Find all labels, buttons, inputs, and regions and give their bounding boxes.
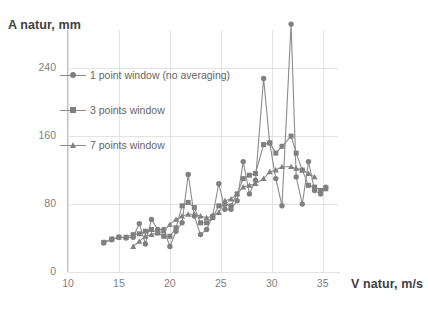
data-point: [306, 183, 311, 188]
data-point: [247, 173, 252, 178]
data-point: [279, 203, 284, 208]
data-point: [323, 186, 328, 191]
data-point: [273, 151, 278, 156]
data-point: [192, 205, 197, 210]
data-point: [294, 174, 299, 179]
data-point: [161, 234, 166, 239]
data-point: [306, 159, 311, 164]
data-point: [198, 220, 203, 225]
data-point: [216, 203, 221, 208]
data-point: [204, 220, 209, 225]
data-point: [241, 159, 246, 164]
data-point: [261, 142, 266, 147]
data-point: [179, 220, 184, 225]
data-point: [174, 225, 179, 230]
data-point: [318, 188, 323, 193]
legend-label: 7 points window: [90, 139, 165, 151]
circle-marker-icon: [60, 69, 86, 81]
data-point: [288, 21, 293, 26]
data-point: [216, 181, 221, 186]
data-point: [261, 76, 266, 81]
data-point: [247, 191, 252, 196]
data-point: [143, 229, 148, 234]
chart-container: A natur, mm V natur, m/s 080160240 10152…: [0, 0, 428, 309]
data-point: [234, 198, 239, 203]
data-point: [204, 227, 209, 232]
data-point: [167, 234, 172, 239]
data-point: [137, 231, 142, 236]
legend-item-3-points[interactable]: 3 points window: [60, 103, 230, 117]
data-point: [241, 176, 246, 181]
data-point: [109, 236, 114, 241]
data-point: [198, 232, 203, 237]
data-point: [222, 207, 227, 212]
data-point: [101, 240, 106, 245]
data-point: [312, 174, 318, 179]
data-point: [149, 227, 154, 232]
data-point: [180, 203, 185, 208]
data-point: [289, 134, 294, 139]
square-marker-icon: [60, 104, 86, 116]
data-point: [312, 185, 317, 190]
data-point: [186, 200, 191, 205]
data-point: [167, 244, 172, 249]
data-point: [131, 232, 136, 237]
legend: 1 point window (no averaging) 3 points w…: [60, 68, 230, 173]
data-point: [229, 203, 234, 208]
data-point: [116, 235, 121, 240]
data-point: [267, 140, 272, 145]
legend-label: 3 points window: [90, 104, 165, 116]
data-point: [300, 201, 305, 206]
legend-item-7-points[interactable]: 7 points window: [60, 138, 230, 152]
legend-label: 1 point window (no averaging): [90, 69, 230, 81]
data-point: [124, 235, 129, 240]
data-point: [280, 144, 285, 149]
data-point: [273, 176, 278, 181]
data-point: [253, 171, 258, 176]
triangle-marker-icon: [60, 139, 86, 151]
legend-item-1-point[interactable]: 1 point window (no averaging): [60, 68, 230, 82]
data-point: [149, 217, 154, 222]
data-point: [137, 221, 142, 226]
data-point: [143, 241, 148, 246]
data-point: [294, 151, 299, 156]
